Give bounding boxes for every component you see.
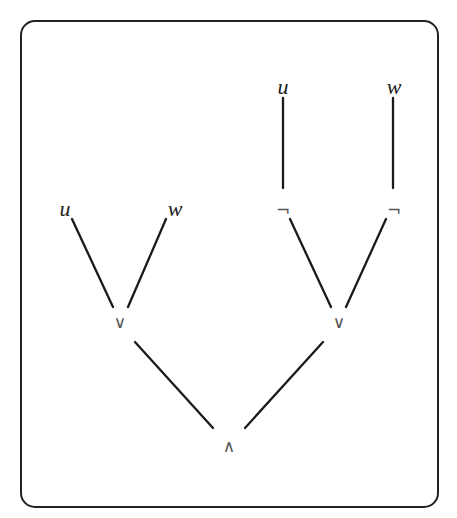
node-not-left: ¬ <box>276 200 290 220</box>
diagram-frame <box>21 21 438 507</box>
node-or-right: ∨ <box>333 312 345 332</box>
node-var-w-left: w <box>168 196 183 221</box>
node-var-u-left: u <box>60 196 71 221</box>
node-not-right: ¬ <box>387 200 401 220</box>
formula-tree-diagram: ∧∨∨uw¬¬uw <box>0 0 457 518</box>
node-var-w-top: w <box>387 74 402 99</box>
node-or-left: ∨ <box>114 312 126 332</box>
node-var-u-top: u <box>278 74 289 99</box>
node-and-root: ∧ <box>223 436 235 456</box>
